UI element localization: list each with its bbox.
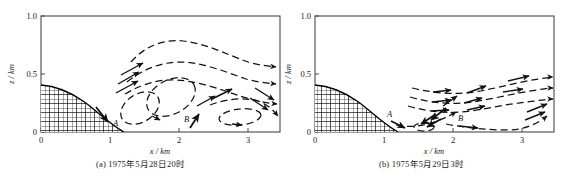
point-label-b: B [458, 113, 463, 123]
streamline-group [396, 77, 553, 131]
streamline-upper-wave-crest [131, 41, 276, 67]
x-tick-label-3: 3 [246, 135, 250, 145]
panel-b-plot: 0 0.5 1.0 0 1 2 3 x / km z / km [281, 0, 562, 183]
y-tick-label-05: 0.5 [300, 69, 311, 79]
y-axis-label: z / km [6, 64, 16, 85]
vortex-1-arrow [152, 116, 160, 120]
x-tick-label-1: 1 [108, 135, 112, 145]
x-tick-label-0: 0 [313, 135, 317, 145]
lee-rotor-vortex-1-outer [115, 85, 165, 131]
streamline-group [125, 41, 278, 116]
terrain-fill [315, 85, 398, 132]
x-tick-label-3: 3 [520, 135, 524, 145]
x-axis-label: x / km [423, 146, 444, 156]
flow-arrow-9 [459, 126, 478, 128]
y-tick-label-0: 0 [33, 127, 37, 137]
flow-arrow-7 [431, 110, 449, 111]
point-label-a: A [386, 109, 393, 119]
flow-arrow-2 [467, 86, 486, 93]
point-label-b: B [184, 114, 189, 124]
x-tick-label-2: 2 [451, 135, 455, 145]
vortex-2-arrow [232, 124, 242, 125]
y-axis-label: z / km [283, 64, 293, 85]
x-tick-label-2: 2 [177, 135, 181, 145]
lee-rotor-vortex-1 [140, 70, 202, 124]
y-tick-label-10: 1.0 [300, 11, 311, 21]
x-axis-label: x / km [149, 146, 170, 156]
flow-arrow-8 [467, 106, 485, 110]
panel-b-caption: (b) 1975年5月29日3时 [281, 157, 562, 169]
panel-b: 0 0.5 1.0 0 1 2 3 x / km z / km [281, 0, 562, 183]
figure-container: 0 0.5 1.0 0 1 2 3 x / km z / km [0, 0, 562, 183]
lee-rotor-vortex-2 [218, 107, 261, 127]
flow-arrow-6 [503, 89, 523, 92]
x-tick-label-0: 0 [39, 135, 43, 145]
panel-a-caption: (a) 1975年5月28日20时 [0, 157, 281, 169]
panel-a: 0 0.5 1.0 0 1 2 3 x / km z / km [0, 0, 281, 183]
downslope-arrow-A [391, 121, 405, 128]
flow-arrow-10 [525, 112, 545, 120]
x-tick-label-1: 1 [382, 135, 386, 145]
streamline-mid-wave [127, 62, 276, 84]
updraft-arrow-B [190, 114, 199, 128]
flow-arrow-7 [255, 88, 274, 100]
panel-a-plot: 0 0.5 1.0 0 1 2 3 x / km z / km [0, 0, 281, 183]
y-tick-label-10: 1.0 [26, 11, 37, 21]
flow-arrow-3 [508, 76, 529, 81]
y-tick-label-0: 0 [307, 127, 311, 137]
flow-arrow-1 [433, 90, 451, 92]
point-label-a: A [112, 118, 119, 128]
y-tick-label-05: 0.5 [26, 69, 37, 79]
terrain-fill [41, 85, 124, 132]
flow-arrow-11 [527, 104, 547, 112]
streamline-descending-branch [210, 99, 278, 116]
